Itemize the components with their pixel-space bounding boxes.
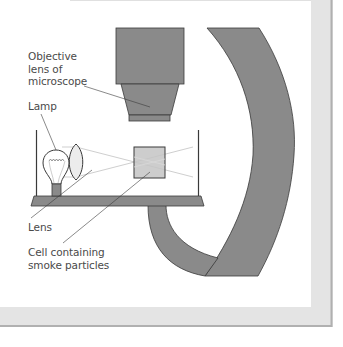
- label-objective-lens: Objective lens of microscope: [28, 50, 87, 88]
- smoke-cell: [134, 147, 165, 178]
- label-lens: Lens: [28, 221, 52, 234]
- diagram-frame: Objective lens of microscope Lamp Lens C…: [0, 0, 343, 347]
- label-lamp: Lamp: [28, 100, 57, 113]
- label-cell: Cell containing smoke particles: [28, 246, 109, 271]
